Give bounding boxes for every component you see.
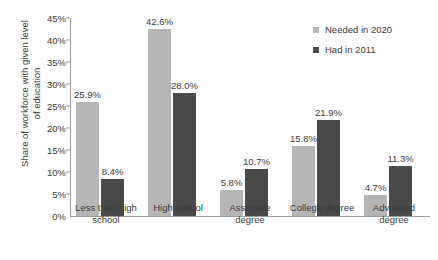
y-tick-label: 45% (47, 13, 66, 24)
bar-group: 42.6%28.0% (142, 18, 214, 216)
y-tick-label: 5% (52, 189, 66, 200)
bar-value-label: 8.4% (102, 166, 124, 177)
bar-value-label: 4.7% (365, 182, 387, 193)
bar-value-label: 25.9% (74, 89, 101, 100)
legend-label: Had in 2011 (325, 44, 376, 55)
y-axis-title-line2: of education (30, 68, 41, 120)
legend-label: Needed in 2020 (325, 24, 392, 35)
bar-chart: Share of workforce with given level of e… (0, 0, 438, 260)
bar-value-label: 11.3% (387, 153, 413, 164)
bar-group: 5.8%10.7% (214, 18, 286, 216)
bar-value-label: 28.0% (171, 80, 198, 91)
y-tick-label: 40% (47, 35, 66, 46)
y-tick-label: 15% (47, 145, 66, 156)
y-tick-label: 10% (47, 167, 66, 178)
bar-value-label: 5.8% (221, 177, 243, 188)
legend-item[interactable]: Had in 2011 (313, 44, 392, 55)
legend: Needed in 2020Had in 2011 (313, 24, 392, 64)
x-tick-label: Associate degree (214, 202, 286, 226)
bar-value-label: 15.8% (290, 133, 317, 144)
x-tick-label: High school (142, 202, 214, 214)
y-tick-label: 35% (47, 57, 66, 68)
y-axis-title-line1: Share of workforce with given level (19, 20, 30, 167)
bar-value-label: 10.7% (243, 156, 270, 167)
legend-item[interactable]: Needed in 2020 (313, 24, 392, 35)
x-tick-label: College degree (286, 202, 358, 214)
bar[interactable]: 42.6% (148, 29, 171, 216)
y-tick-label: 0% (52, 211, 66, 222)
bar-value-label: 42.6% (146, 16, 173, 27)
legend-swatch (313, 27, 319, 33)
y-tick-label: 25% (47, 101, 66, 112)
y-tick-label: 20% (47, 123, 66, 134)
y-tick-label: 30% (47, 79, 66, 90)
bar-group: 25.9%8.4% (70, 18, 142, 216)
bar-value-label: 21.9% (315, 107, 342, 118)
legend-swatch (313, 47, 319, 53)
bar[interactable]: 28.0% (173, 93, 196, 216)
x-tick-label: Advanced degree (358, 202, 430, 226)
x-tick-label: Less than high school (70, 202, 142, 226)
y-axis-title: Share of workforce with given level of e… (19, 4, 42, 184)
bar[interactable]: 25.9% (76, 102, 99, 216)
